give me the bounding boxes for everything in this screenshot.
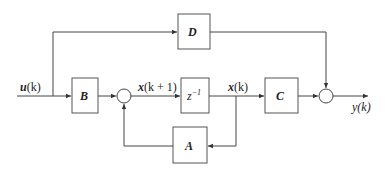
state-space-diagram: D B x(k + 1) z−1 x(k) C y(k) A u(k) <box>0 0 385 177</box>
A-output-wire <box>124 104 173 146</box>
next-state-label: x(k + 1) <box>137 80 177 94</box>
output-label: y(k) <box>351 100 371 114</box>
block-D-label: D <box>187 25 197 39</box>
block-B-label: B <box>79 89 88 103</box>
input-label: u(k) <box>20 80 41 94</box>
block-A-label: A <box>184 139 193 153</box>
summing-junction-2 <box>319 89 333 103</box>
feedback-wire-to-A <box>208 96 236 146</box>
state-label: x(k) <box>227 80 248 94</box>
summing-junction-1 <box>117 89 131 103</box>
block-C-label: C <box>276 89 285 103</box>
